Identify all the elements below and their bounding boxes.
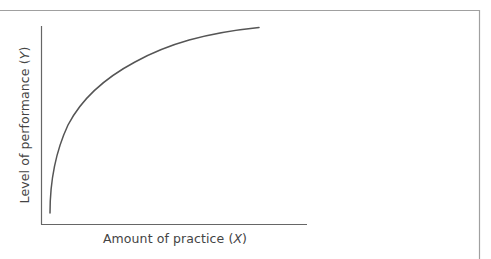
learning-curve-figure: Level of performance (Y) Amount of pract…: [0, 0, 491, 259]
x-axis-label: Amount of practice (X): [95, 231, 255, 246]
y-axis-label: Level of performance (Y): [17, 47, 32, 204]
plot-area: [0, 0, 491, 259]
performance-curve: [50, 28, 259, 214]
x-variable: X: [233, 231, 242, 246]
y-variable: Y: [17, 52, 32, 60]
